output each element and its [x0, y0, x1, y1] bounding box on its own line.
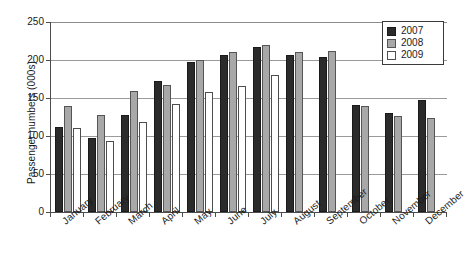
bar-group: [315, 22, 348, 212]
legend-swatch-icon-2009: [387, 51, 396, 60]
bar-2007-january: [55, 127, 63, 212]
legend-entry-2008: 2008: [387, 37, 439, 49]
y-tick-label-50: 50: [4, 169, 44, 179]
y-tick-label-100: 100: [4, 131, 44, 141]
bar-2008-november: [394, 116, 402, 212]
x-tick-mark: [281, 212, 282, 217]
x-tick-mark: [50, 212, 51, 217]
bar-2007-april: [154, 81, 162, 212]
legend-swatch-icon-2008: [387, 39, 396, 48]
y-tick-label-250: 250: [4, 17, 44, 27]
bar-2007-june: [220, 55, 228, 212]
bar-group: [117, 22, 150, 212]
bar-group: [282, 22, 315, 212]
legend-entry-2007: 2007: [387, 25, 439, 37]
y-tick-label-200: 200: [4, 55, 44, 65]
bar-2008-september: [328, 51, 336, 212]
bar-2007-august: [286, 55, 294, 212]
bar-group: [348, 22, 381, 212]
bar-2007-may: [187, 62, 195, 212]
bar-group: [183, 22, 216, 212]
bar-2008-may: [196, 60, 204, 212]
bar-2009-january: [73, 128, 81, 212]
legend-entry-2009: 2009: [387, 49, 439, 61]
bar-2009-july: [271, 75, 279, 212]
x-tick-mark: [215, 212, 216, 217]
legend-label-2007: 2007: [401, 26, 423, 36]
bar-2008-march: [130, 91, 138, 212]
bar-group: [216, 22, 249, 212]
bar-2007-september: [319, 57, 327, 212]
legend-swatch-icon-2007: [387, 27, 396, 36]
x-axis-labels: JanuaryFebruaryMarchAprilMayJuneJulyAugu…: [50, 218, 446, 272]
bar-2008-june: [229, 52, 237, 212]
bar-group: [249, 22, 282, 212]
y-tick-label-150: 150: [4, 93, 44, 103]
bar-2008-july: [262, 45, 270, 212]
y-tick-label-0: 0: [4, 207, 44, 217]
bar-2007-july: [253, 47, 261, 212]
bar-2008-april: [163, 85, 171, 212]
legend-label-2008: 2008: [401, 38, 423, 48]
bar-2008-august: [295, 52, 303, 212]
bar-group: [84, 22, 117, 212]
bar-2008-february: [97, 115, 105, 212]
bar-group: [51, 22, 84, 212]
chart-legend: 200720082009: [382, 21, 444, 65]
bar-2009-march: [139, 122, 147, 212]
bar-2009-april: [172, 104, 180, 212]
bar-2009-may: [205, 92, 213, 212]
legend-label-2009: 2009: [401, 50, 423, 60]
bar-2008-january: [64, 106, 72, 212]
bar-2009-june: [238, 86, 246, 212]
bar-group: [150, 22, 183, 212]
